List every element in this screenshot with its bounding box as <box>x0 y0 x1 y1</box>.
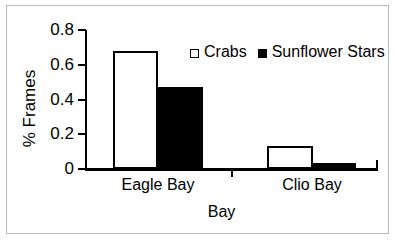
x-tick-separator <box>231 168 233 177</box>
x-category-label-eagle-bay: Eagle Bay <box>98 176 218 194</box>
y-tick-label-0.8: 0.8 <box>28 21 74 38</box>
filled-square-marker-icon <box>258 49 267 58</box>
chart-legend: Crabs Sunflower Stars <box>190 43 385 61</box>
bar-clio-bay-sunflower-stars <box>313 163 356 169</box>
x-tick-end <box>376 160 378 171</box>
open-square-marker-icon <box>190 49 199 58</box>
y-axis-title: % Frames <box>21 54 38 164</box>
y-tick-0.6 <box>78 64 86 66</box>
bar-eagle-bay-sunflower-stars <box>158 87 203 169</box>
y-tick-0.8 <box>78 29 86 31</box>
x-axis-title: Bay <box>208 203 236 220</box>
y-tick-0 <box>78 168 86 170</box>
y-tick-0.4 <box>78 99 86 101</box>
legend-label-sunflower-stars: Sunflower Stars <box>272 43 385 61</box>
y-tick-0.2 <box>78 133 86 135</box>
y-tick-label-0.8-wrap: 0.8 <box>22 21 74 38</box>
x-category-label-clio-bay: Clio Bay <box>252 176 372 194</box>
legend-item-crabs: Crabs <box>190 43 247 61</box>
legend-item-sunflower-stars: Sunflower Stars <box>258 43 385 61</box>
chart-figure: 0.8 0.6 0.4 0.2 0 Eagle Bay Clio Bay <box>0 0 405 244</box>
plot-area: 0.8 0.6 0.4 0.2 0 Eagle Bay Clio Bay <box>0 0 405 244</box>
bar-clio-bay-crabs <box>267 146 313 169</box>
x-axis-title-wrap: Bay <box>0 203 405 221</box>
bar-eagle-bay-crabs <box>113 51 158 169</box>
legend-label-crabs: Crabs <box>204 43 247 61</box>
